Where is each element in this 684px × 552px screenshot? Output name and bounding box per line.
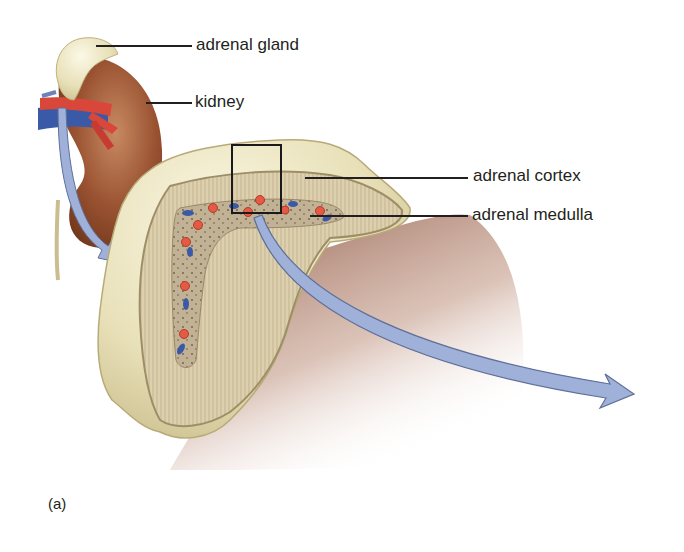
adrenal-illustration <box>0 0 684 552</box>
leader-line-kidney <box>146 102 192 104</box>
label-adrenal-gland: adrenal gland <box>196 36 299 53</box>
label-adrenal-medulla: adrenal medulla <box>472 206 593 223</box>
panel-label: (a) <box>48 495 66 512</box>
adrenal-gland-figure: adrenal gland kidney adrenal cortex adre… <box>0 0 684 552</box>
leader-line-adrenal-gland <box>96 45 192 47</box>
leader-line-adrenal-cortex <box>305 177 468 179</box>
leader-line-adrenal-medulla <box>310 215 468 217</box>
label-adrenal-cortex: adrenal cortex <box>473 167 581 184</box>
label-kidney: kidney <box>195 93 244 110</box>
ureter <box>57 200 59 280</box>
vessel-stub <box>42 92 56 96</box>
